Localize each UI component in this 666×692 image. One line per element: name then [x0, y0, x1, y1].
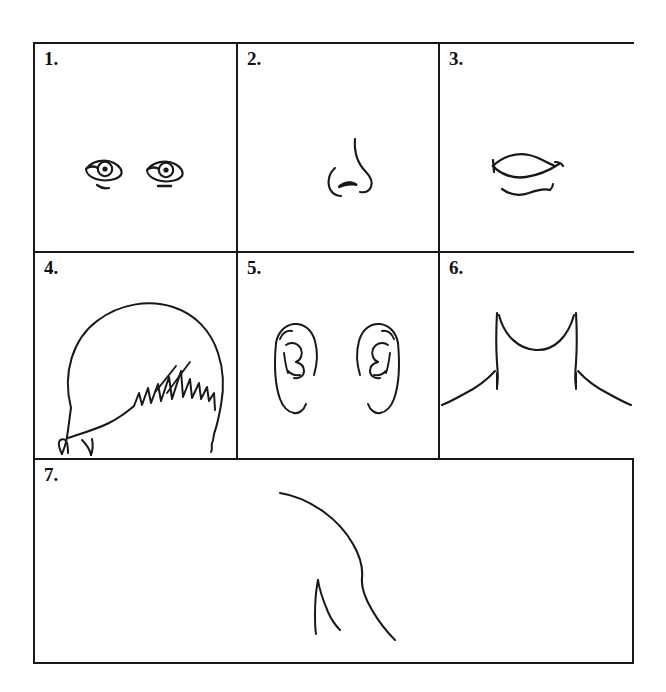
- panel-number-4: 4.: [44, 255, 58, 281]
- worksheet-frame: 1. 2. 3.: [33, 42, 634, 664]
- panel-number-5: 5.: [247, 255, 261, 281]
- panel-7-arm-torso[interactable]: 7.: [35, 460, 632, 662]
- panel-number-7: 7.: [44, 462, 58, 488]
- neck-shoulders-drawing: [440, 253, 636, 458]
- panel-number-2: 2.: [247, 46, 261, 72]
- panel-4-hair[interactable]: 4.: [35, 253, 236, 458]
- panel-number-6: 6.: [449, 255, 463, 281]
- panel-2-nose[interactable]: 2.: [238, 44, 438, 251]
- panel-5-ears[interactable]: 5.: [238, 253, 438, 458]
- mouth-drawing: [440, 44, 636, 251]
- panel-number-1: 1.: [44, 46, 58, 72]
- panel-6-neck-shoulders[interactable]: 6.: [440, 253, 636, 458]
- panel-1-eyes[interactable]: 1.: [35, 44, 236, 251]
- eyes-drawing: [35, 44, 236, 251]
- nose-drawing: [238, 44, 438, 251]
- panel-number-3: 3.: [449, 46, 463, 72]
- panel-3-mouth[interactable]: 3.: [440, 44, 636, 251]
- arm-torso-drawing: [35, 460, 632, 662]
- hair-drawing: [35, 253, 236, 458]
- ears-drawing: [238, 253, 438, 458]
